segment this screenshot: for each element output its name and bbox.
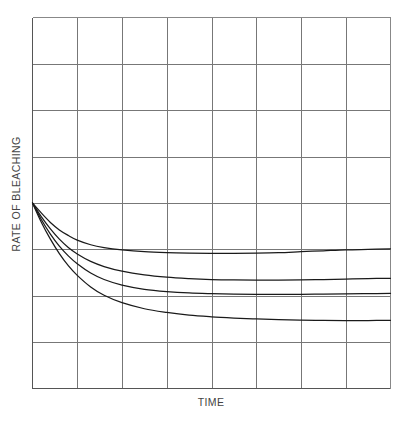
data-curve: [33, 203, 391, 280]
data-curve: [33, 203, 391, 294]
data-curve: [33, 203, 391, 321]
x-axis-label-text: TIME: [198, 396, 225, 408]
grid-lines: [33, 18, 391, 389]
chart-figure: RATE OF BLEACHING TIME: [0, 0, 413, 422]
chart-plot-area: [0, 0, 413, 422]
data-curve: [33, 203, 391, 253]
x-axis-label: TIME: [32, 396, 390, 408]
data-series-group: [33, 203, 391, 321]
